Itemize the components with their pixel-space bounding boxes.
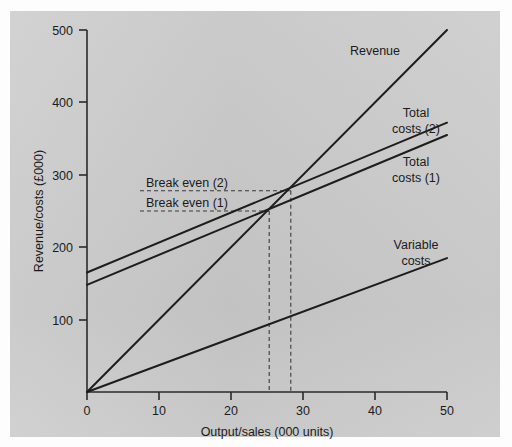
series-label-variable-costs-line1: Variable <box>394 238 439 252</box>
y-axis-title: Revenue/costs (£000) <box>32 150 46 272</box>
x-tick-label-20: 20 <box>224 404 238 418</box>
y-tick-label-400: 400 <box>52 96 73 110</box>
y-tick-label-200: 200 <box>52 241 73 255</box>
x-tick-label-40: 40 <box>368 404 382 418</box>
annotation-label-break-even-1: Break even (1) <box>146 196 228 210</box>
series-label-total-costs-2-line1: Total <box>403 106 429 120</box>
annotation-label-break-even-2: Break even (2) <box>146 176 228 190</box>
series-label-total-costs-1-line1: Total <box>403 155 429 169</box>
x-axis-title: Output/sales (000 units) <box>201 425 334 439</box>
x-tick-label-50: 50 <box>440 404 454 418</box>
y-tick-label-500: 500 <box>52 24 73 38</box>
chart-plot-area: 500 400 300 200 100 0 10 20 30 40 50 Out… <box>0 0 512 447</box>
series-line-variable-costs <box>87 258 447 392</box>
series-label-total-costs-1-line2: costs (1) <box>392 171 440 185</box>
x-tick-label-0: 0 <box>84 404 91 418</box>
x-tick-label-10: 10 <box>152 404 166 418</box>
series-line-total-costs-1 <box>87 135 447 285</box>
series-label-variable-costs-line2: costs <box>401 254 430 268</box>
y-tick-label-100: 100 <box>52 314 73 328</box>
series-label-total-costs-2-line2: costs (2) <box>392 122 440 136</box>
x-tick-label-30: 30 <box>296 404 310 418</box>
y-tick-label-300: 300 <box>52 169 73 183</box>
series-label-revenue: Revenue <box>350 44 400 58</box>
break-even-chart-figure: 500 400 300 200 100 0 10 20 30 40 50 Out… <box>0 0 512 447</box>
